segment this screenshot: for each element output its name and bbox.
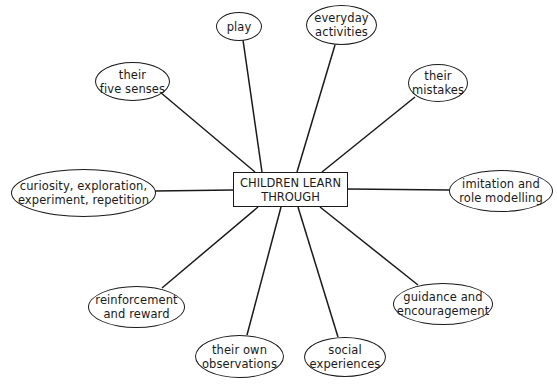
connector-observations xyxy=(247,207,281,335)
node-social-experiences: social experiences xyxy=(304,337,386,377)
node-label: reinforcement and reward xyxy=(95,293,177,321)
node-label: guidance and encouragement xyxy=(397,290,490,318)
connector-imitation xyxy=(348,189,449,190)
connector-guidance xyxy=(320,207,418,285)
central-topic-box: CHILDREN LEARN THROUGH xyxy=(233,172,348,207)
node-guidance-encouragement: guidance and encouragement xyxy=(393,283,493,325)
node-label: everyday activities xyxy=(314,11,368,39)
connector-senses xyxy=(160,92,255,172)
node-reinforcement-reward: reinforcement and reward xyxy=(88,286,185,328)
connector-reinforcement xyxy=(162,207,258,288)
connector-play xyxy=(243,40,262,172)
node-everyday-activities: everyday activities xyxy=(306,5,377,45)
node-curiosity-exploration: curiosity, exploration, experiment, repe… xyxy=(11,169,156,217)
node-label: curiosity, exploration, experiment, repe… xyxy=(18,179,149,207)
node-label: their mistakes xyxy=(412,69,464,97)
node-play: play xyxy=(216,12,262,41)
node-label: their five senses xyxy=(100,68,165,96)
node-label: play xyxy=(227,20,252,34)
connector-everyday xyxy=(297,45,335,172)
node-their-mistakes: their mistakes xyxy=(408,64,468,102)
node-their-five-senses: their five senses xyxy=(95,62,170,101)
connector-curiosity xyxy=(155,190,233,191)
node-imitation-role-modelling: imitation and role modelling xyxy=(449,170,553,212)
connector-social xyxy=(298,207,338,337)
node-label: their own observations xyxy=(202,343,277,371)
node-their-own-observations: their own observations xyxy=(195,335,284,378)
node-label: imitation and role modelling xyxy=(459,177,543,205)
node-label: social experiences xyxy=(310,343,381,371)
connector-mistakes xyxy=(322,97,415,172)
